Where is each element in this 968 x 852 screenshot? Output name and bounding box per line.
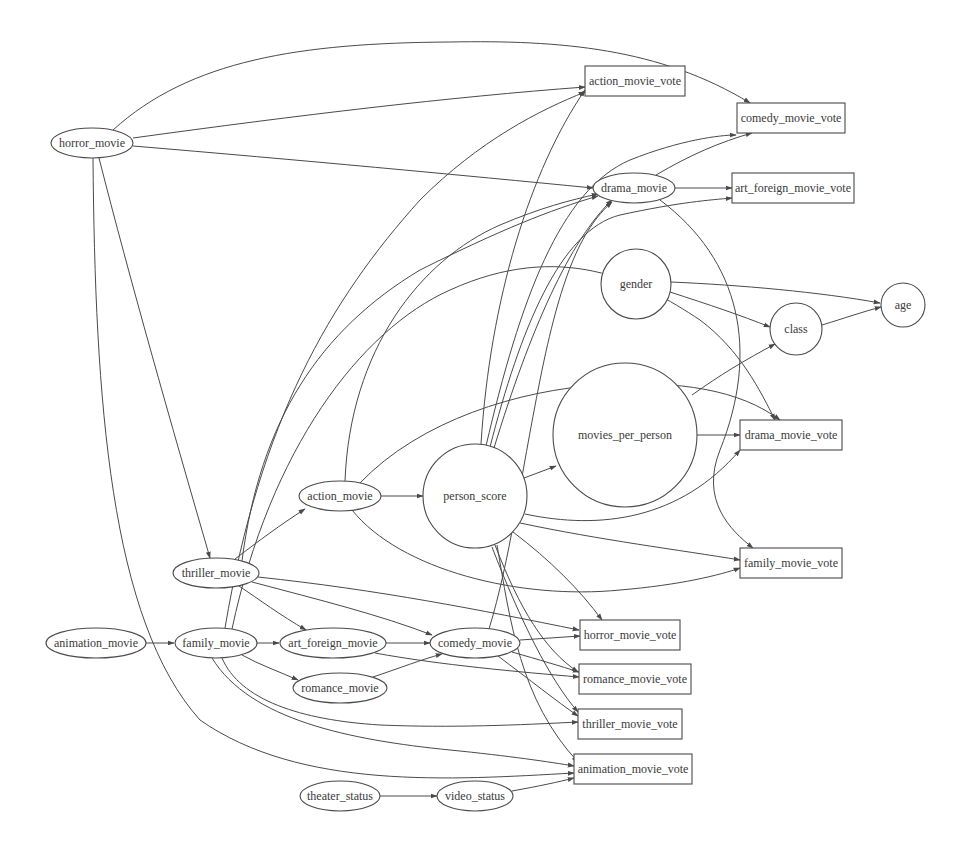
- node-thriller_movie: thriller_movie: [173, 558, 259, 588]
- edge-drama_movie-to-family_movie_vote: [660, 200, 753, 548]
- edge-comedy_movie-to-horror_movie_vote: [520, 636, 580, 640]
- node-art_foreign_movie_vote: art_foreign_movie_vote: [732, 173, 854, 203]
- node-label: horror_movie: [59, 136, 125, 150]
- node-animation_movie_vote: animation_movie_vote: [574, 754, 692, 784]
- node-video_status: video_status: [437, 781, 513, 811]
- edge-video_status-to-animation_movie_vote: [512, 778, 574, 791]
- edge-gender-to-class: [670, 292, 770, 327]
- edge-layer: [93, 42, 881, 796]
- edge-family_movie-to-animation_movie_vote: [212, 658, 574, 766]
- edge-thriller_movie-to-horror_movie_vote: [258, 577, 579, 630]
- node-comedy_movie: comedy_movie: [430, 628, 520, 658]
- edge-horror_movie-to-action_movie_vote: [133, 87, 585, 138]
- node-label: romance_movie: [301, 681, 378, 695]
- edge-family_movie-to-romance_movie: [242, 655, 298, 680]
- edge-thriller_movie-to-comedy_movie: [252, 582, 432, 635]
- node-person_score: person_score: [423, 444, 527, 548]
- edge-person_score-to-family_movie_vote: [520, 523, 740, 560]
- node-age: age: [881, 283, 925, 327]
- node-label: age: [895, 298, 912, 312]
- edge-family_movie-to-thriller_movie_vote: [222, 658, 578, 726]
- node-horror_movie: horror_movie: [51, 128, 133, 158]
- node-label: romance_movie_vote: [583, 672, 687, 686]
- node-art_foreign_movie: art_foreign_movie: [280, 628, 386, 658]
- node-gender: gender: [601, 249, 671, 319]
- edge-class-to-age: [822, 307, 881, 325]
- edge-person_score-to-horror_movie_vote: [513, 532, 602, 620]
- node-label: action_movie: [307, 489, 372, 503]
- node-label: comedy_movie: [438, 636, 512, 650]
- node-label: thriller_movie: [182, 566, 251, 580]
- node-label: comedy_movie_vote: [741, 111, 842, 125]
- node-action_movie: action_movie: [299, 481, 381, 511]
- node-drama_movie_vote: drama_movie_vote: [740, 420, 842, 450]
- node-romance_movie_vote: romance_movie_vote: [579, 664, 691, 694]
- node-label: video_status: [445, 789, 505, 803]
- node-label: family_movie_vote: [744, 556, 838, 570]
- node-theater_status: theater_status: [300, 781, 380, 811]
- edge-drama_movie-to-comedy_movie_vote: [656, 133, 752, 175]
- node-animation_movie: animation_movie: [46, 628, 146, 658]
- edge-person_score-to-thriller_movie_vote: [492, 547, 578, 712]
- node-label: family_movie: [182, 636, 249, 650]
- node-action_movie_vote: action_movie_vote: [585, 66, 685, 96]
- edge-person_score-to-movies_per_person: [524, 466, 556, 478]
- edge-thriller_movie-to-drama_movie: [242, 196, 598, 561]
- node-movies_per_person: movies_per_person: [553, 363, 697, 507]
- node-label: drama_movie_vote: [745, 428, 838, 442]
- bayesian-network-diagram: horror_movieaction_movie_votecomedy_movi…: [0, 0, 968, 852]
- edge-comedy_movie-to-thriller_movie_vote: [498, 656, 578, 716]
- edge-family_movie-to-action_movie_vote: [225, 92, 585, 628]
- edge-horror_movie-to-thriller_movie: [99, 158, 210, 558]
- node-class: class: [770, 303, 822, 355]
- node-label: horror_movie_vote: [584, 628, 677, 642]
- node-romance_movie: romance_movie: [293, 673, 387, 703]
- node-label: art_foreign_movie_vote: [735, 181, 851, 195]
- node-label: animation_movie: [54, 636, 138, 650]
- node-label: class: [784, 322, 808, 336]
- node-label: person_score: [443, 489, 506, 503]
- node-horror_movie_vote: horror_movie_vote: [580, 620, 680, 650]
- node-label: theater_status: [307, 789, 373, 803]
- node-label: drama_movie: [601, 181, 667, 195]
- edge-horror_movie-to-drama_movie: [133, 146, 593, 188]
- edge-thriller_movie-to-action_movie: [235, 509, 305, 559]
- node-label: thriller_movie_vote: [582, 717, 677, 731]
- node-label: gender: [620, 277, 653, 291]
- node-drama_movie: drama_movie: [593, 173, 675, 203]
- node-label: movies_per_person: [578, 428, 672, 442]
- edge-thriller_movie-to-art_foreign_movie: [239, 586, 306, 630]
- node-family_movie: family_movie: [175, 628, 257, 658]
- edge-gender-to-age: [671, 282, 880, 303]
- edge-romance_movie-to-comedy_movie: [373, 654, 442, 677]
- node-thriller_movie_vote: thriller_movie_vote: [578, 709, 682, 739]
- node-label: animation_movie_vote: [578, 762, 689, 776]
- node-label: action_movie_vote: [589, 74, 681, 88]
- node-label: art_foreign_movie: [288, 636, 377, 650]
- node-comedy_movie_vote: comedy_movie_vote: [737, 103, 845, 133]
- node-family_movie_vote: family_movie_vote: [740, 548, 842, 578]
